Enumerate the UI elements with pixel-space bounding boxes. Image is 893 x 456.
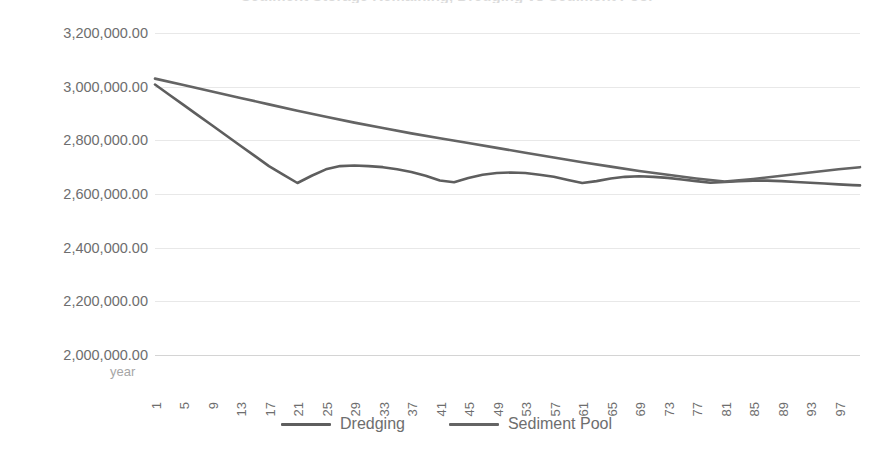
y-axis-tick-label: 3,200,000.00 [8, 26, 148, 41]
legend-item-sediment-pool[interactable]: Sediment Pool [449, 415, 612, 433]
x-axis-tick-labels: 1591317212529333741454953576165697377818… [155, 358, 860, 404]
legend-label: Dredging [340, 415, 405, 433]
legend-label: Sediment Pool [508, 415, 612, 433]
y-axis-tick-label: 2,000,000.00 [8, 348, 148, 363]
y-axis-tick-label: 2,800,000.00 [8, 133, 148, 148]
series-lines [155, 33, 860, 355]
series-line-dredging [155, 85, 860, 186]
y-axis-tick-label: 2,200,000.00 [8, 294, 148, 309]
plot-area [155, 33, 860, 355]
y-axis-tick-label: 2,400,000.00 [8, 241, 148, 256]
x-axis-title: year [110, 364, 135, 379]
legend-swatch-icon [449, 423, 499, 426]
x-axis-tick-label: 1 [150, 402, 163, 409]
x-axis-tick-label: 9 [207, 402, 220, 409]
legend-swatch-icon [281, 423, 331, 426]
y-axis-tick-label: 2,600,000.00 [8, 187, 148, 202]
y-axis-tick-labels: 3,200,000.003,000,000.002,800,000.002,60… [0, 0, 148, 456]
y-axis-tick-label: 3,000,000.00 [8, 80, 148, 95]
series-line-sediment-pool [155, 79, 860, 182]
x-axis-line [155, 355, 860, 356]
line-chart: Sediment Storage Remaining, Dredging vs … [0, 0, 893, 456]
chart-legend: DredgingSediment Pool [0, 415, 893, 433]
x-axis-tick-label: 5 [178, 402, 191, 409]
legend-item-dredging[interactable]: Dredging [281, 415, 405, 433]
